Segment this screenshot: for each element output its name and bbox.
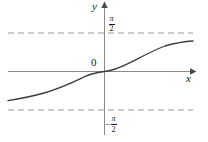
asymptote-top-label: π 2 <box>108 11 115 33</box>
plot-canvas <box>0 0 208 142</box>
y-axis-arrowhead <box>101 2 107 9</box>
pi-top-denominator: 2 <box>109 25 115 33</box>
pi-bottom-sign: − <box>105 120 110 129</box>
asymptote-bottom-label: − π 2 <box>105 114 117 134</box>
x-axis-label: x <box>186 73 191 84</box>
pi-over-two-top: π 2 <box>108 15 115 34</box>
pi-bottom-numerator: π <box>111 115 117 123</box>
pi-top-fraction: π 2 <box>109 15 115 34</box>
pi-top-numerator: π <box>109 15 115 23</box>
y-axis-label: y <box>92 1 97 12</box>
arctan-graph-figure: y x 0 π 2 − π 2 <box>0 0 208 142</box>
pi-bottom-denominator: 2 <box>111 126 117 134</box>
origin-label: 0 <box>91 57 97 68</box>
arctan-curve <box>8 41 193 101</box>
pi-bottom-fraction: π 2 <box>111 115 117 134</box>
negative-pi-over-two-bottom: − π 2 <box>105 115 117 134</box>
